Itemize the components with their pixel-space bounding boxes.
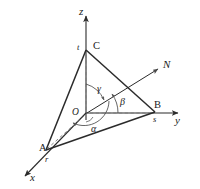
angle-label-alpha: α: [91, 124, 96, 134]
angle-label-beta: β: [120, 97, 125, 107]
intercept-label-r: r: [45, 155, 48, 164]
geometry-figure: z y x C t B s A r O N γ β α: [0, 0, 200, 189]
axis-x-line: [25, 113, 86, 176]
axis-label-x: x: [30, 172, 35, 183]
normal-vector-label: N: [163, 59, 170, 70]
plane-triangle: [46, 50, 155, 150]
axis-label-y: y: [175, 115, 180, 126]
origin-label: O: [72, 108, 79, 118]
figure-canvas: [0, 0, 200, 189]
angle-arc-gamma: [86, 84, 104, 100]
axis-label-z: z: [79, 6, 83, 17]
triangle-edge-ca: [46, 50, 86, 150]
dashed-helper-group: [48, 52, 152, 148]
intercept-label-t: t: [77, 43, 79, 52]
triangle-edge-ab: [46, 112, 155, 150]
angle-arc-alpha-inner: [86, 117, 93, 122]
intercept-label-s: s: [153, 115, 156, 124]
vertex-label-b: B: [154, 100, 161, 111]
vertex-label-a: A: [39, 143, 47, 154]
vertex-label-c: C: [93, 41, 100, 52]
angle-label-gamma: γ: [97, 84, 101, 94]
